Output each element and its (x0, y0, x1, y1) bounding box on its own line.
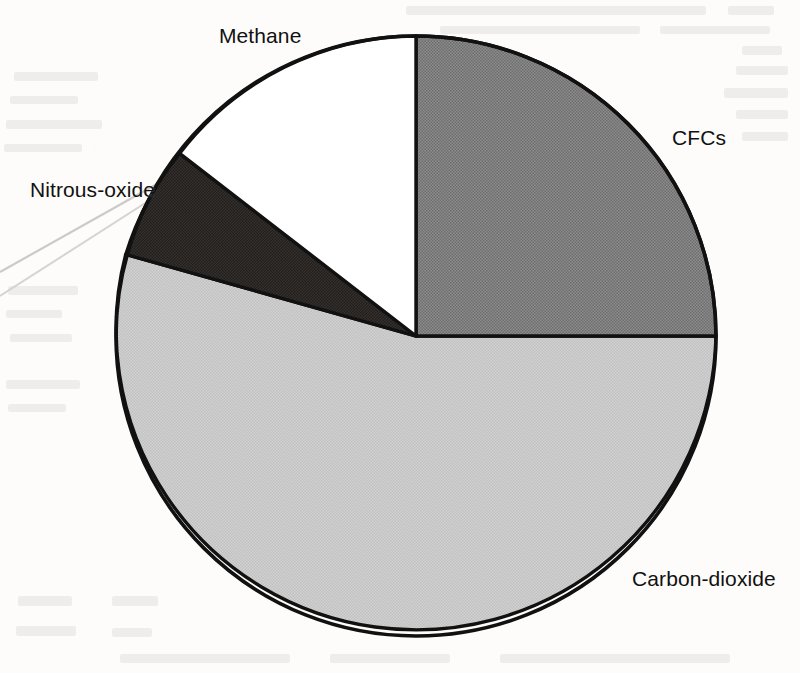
slice-label-methane: Methane (219, 24, 301, 48)
slice-label-nitrous-oxide: Nitrous-oxide (30, 178, 155, 202)
slice-label-cfcs: CFCs (672, 126, 726, 150)
pie-slice-cfcs[interactable] (416, 36, 716, 336)
pie-chart: Methane CFCs Nitrous-oxide Carbon-dioxid… (0, 0, 800, 673)
slice-label-carbon-dioxide: Carbon-dioxide (632, 567, 776, 591)
